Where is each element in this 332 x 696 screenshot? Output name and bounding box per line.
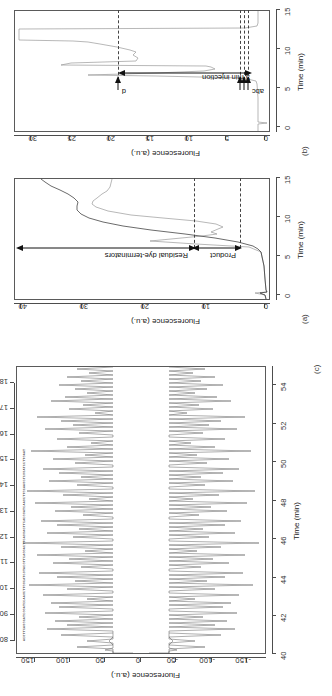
panel-c-xtick [272, 577, 276, 578]
panel-c-baseline-shelf [17, 367, 265, 653]
panel-b-yticklabel: 15 [145, 134, 154, 143]
panel-b-abc-label: abc [252, 87, 264, 96]
panel-b-yticklabel: 25 [67, 134, 76, 143]
panel-b-x-axis [276, 10, 277, 132]
panel-b-yticklabel: 10 [184, 134, 193, 143]
panel-c-top-tick [10, 434, 14, 435]
panel-b-xtick [276, 48, 280, 49]
panel-c-top-tick [10, 382, 14, 383]
panel-c-top-tick [10, 485, 14, 486]
panel-a-xticklabel: 10 [283, 214, 292, 223]
panel-b-xtick [276, 126, 280, 127]
panel-b-xticklabel: 15 [283, 7, 292, 16]
panel-c-yticklabel: 150 [21, 656, 34, 665]
panel-c-xticklabel: 52 [279, 421, 288, 430]
panel-c-y-axis-title: Fluorescence (a.u.) [111, 671, 180, 680]
panel-c-xtick [272, 461, 276, 462]
panel-a: Product Residual dye-terminators 0 5 10 … [0, 168, 332, 344]
panel-c-xtick [272, 615, 276, 616]
panel-a-yticklabel: 20 [140, 302, 149, 311]
panel-c-top-axis [14, 383, 15, 641]
panel-b-yticklabel: 20 [106, 134, 115, 143]
panel-c-top-ticklabel: 140 [0, 480, 8, 489]
panel-c-yticklabel: 0 [136, 656, 140, 665]
panel-c-ytick [69, 658, 70, 662]
figure-page: 40 42 44 46 48 50 52 54 Time (min) 150 1… [0, 0, 332, 696]
panel-c-top-tick [10, 511, 14, 512]
panel-c-ytick [34, 658, 35, 662]
panel-c-y-axis [16, 657, 266, 658]
figure-canvas: 40 42 44 46 48 50 52 54 Time (min) 150 1… [0, 0, 332, 696]
panel-a-xtick [276, 216, 280, 217]
panel-a-xticklabel: 0 [283, 294, 292, 298]
panel-b-d-label: d [122, 87, 126, 96]
panel-b-y-axis [14, 135, 270, 136]
panel-c-top-tick [10, 614, 14, 615]
panel-c-ytick [140, 658, 141, 662]
panel-c-top-ticklabel: 110 [0, 557, 8, 566]
panel-a-xticklabel: 15 [283, 175, 292, 184]
panel-a-x-axis-title: Time (min) [296, 221, 305, 259]
panel-c-top-ticklabel: 90 [0, 609, 8, 618]
panel-c-xtick [272, 538, 276, 539]
panel-c-xtick [272, 500, 276, 501]
panel-b-xtick [276, 9, 280, 10]
panel-b-xticklabel: 10 [283, 46, 292, 55]
panel-a-residual-dye-label: Residual dye-terminators [105, 251, 188, 260]
panel-a-xtick [276, 255, 280, 256]
panel-c-ytick [104, 658, 105, 662]
panel-c-top-tick [10, 459, 14, 460]
panel-c-top-ticklabel: 130 [0, 506, 8, 515]
panel-c-xticklabel: 44 [279, 575, 288, 584]
panel-b-xticklabel: 0 [283, 126, 292, 130]
panel-c-yticklabel: -150 [235, 656, 251, 665]
panel-c-xticklabel: 50 [279, 459, 288, 468]
panel-a-yticklabel: 10 [201, 302, 210, 311]
panel-c-top-tick [10, 588, 14, 589]
panel-b: abc d 5 min injection 0 5 10 15 Time (mi… [0, 0, 332, 176]
panel-a-xtick [276, 177, 280, 178]
panel-b-x-axis-title: Time (min) [296, 53, 305, 91]
panel-c-yticklabel: -100 [199, 656, 215, 665]
panel-b-xticklabel: 5 [283, 87, 292, 91]
panel-c-top-ticklabel: 180 [0, 377, 8, 386]
panel-c-xtick [272, 384, 276, 385]
panel-b-yticklabel: 0 [264, 134, 268, 143]
panel-b-letter: (b) [300, 146, 309, 156]
panel-c-xtick [272, 653, 276, 654]
panel-c-xticklabel: 40 [279, 651, 288, 660]
panel-c: 40 42 44 46 48 50 52 54 Time (min) 150 1… [0, 346, 332, 696]
panel-c-yticklabel: 50 [95, 656, 104, 665]
panel-b-y-axis-title: Fluorescence (a.u.) [131, 149, 200, 158]
panel-a-letter: (a) [300, 314, 309, 324]
panel-c-top-ticklabel: 160 [0, 429, 8, 438]
panel-c-xticklabel: 46 [279, 536, 288, 545]
panel-c-xticklabel: 42 [279, 613, 288, 622]
panel-a-x-axis [276, 178, 277, 300]
panel-a-xtick [276, 294, 280, 295]
panel-c-top-ticklabel: 150 [0, 454, 8, 463]
panel-b-yticklabel: 30 [28, 134, 37, 143]
panel-a-yticklabel: 30 [79, 302, 88, 311]
panel-c-letter: (c) [312, 365, 321, 374]
panel-c-top-tick [10, 562, 14, 563]
panel-b-yticklabel: 5 [225, 134, 229, 143]
panel-c-x-axis-title: Time (min) [292, 502, 301, 540]
panel-c-top-ticklabel: 100 [0, 583, 8, 592]
panel-c-top-tick [10, 408, 14, 409]
panel-c-base-call-sequence: ACGTTCAGGCATCGGATCCAAGCTTGGCATCGTACGTTCA… [22, 449, 26, 641]
panel-a-xticklabel: 5 [283, 255, 292, 259]
panel-b-xtick [276, 87, 280, 88]
panel-a-y-axis-title: Fluorescence (a.u.) [131, 317, 200, 326]
panel-a-yticklabel: 40 [18, 302, 27, 311]
panel-c-xticklabel: 54 [279, 382, 288, 391]
panel-c-yticklabel: -50 [167, 656, 178, 665]
panel-c-top-ticklabel: 170 [0, 403, 8, 412]
panel-a-product-label: Product [210, 251, 236, 260]
panel-a-yticklabel: 0 [264, 302, 268, 311]
panel-b-injection-label: 5 min injection [202, 73, 250, 82]
panel-c-xtick [272, 423, 276, 424]
panel-c-x-axis [272, 366, 273, 654]
panel-c-top-ticklabel: 80 [0, 635, 8, 644]
panel-c-top-tick [10, 640, 14, 641]
